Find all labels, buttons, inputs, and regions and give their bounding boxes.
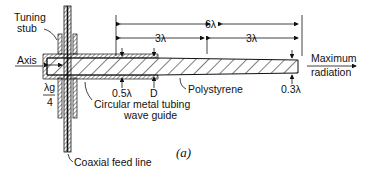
polyrod-antenna-diagram: Tuning stub Axis λg 4 Circular metal tub… (0, 0, 371, 178)
output-label-2: radiation (311, 66, 351, 78)
total-length-label: 6λ (205, 18, 217, 30)
coax-label: Coaxial feed line (74, 156, 152, 168)
waveguide-label-2: wave guide (123, 109, 177, 121)
diameter-mid-label: D (150, 87, 158, 99)
tuning-stub-label-2: stub (17, 22, 37, 34)
diameter-end-label: 0.3λ (281, 83, 302, 95)
output-label-1: Maximum (311, 52, 357, 64)
diameter-start-label: 0.5λ (112, 87, 133, 99)
guide-wavelength-label: λg (44, 81, 55, 93)
axis-label: Axis (17, 54, 37, 66)
first-half-length-label: 3λ (155, 32, 167, 44)
second-half-length-label: 3λ (246, 32, 258, 44)
polystyrene-rod (47, 58, 298, 75)
guide-wavelength-denominator: 4 (47, 96, 53, 108)
polystyrene-label: Polystyrene (188, 83, 243, 95)
figure-caption: (a) (176, 145, 191, 160)
